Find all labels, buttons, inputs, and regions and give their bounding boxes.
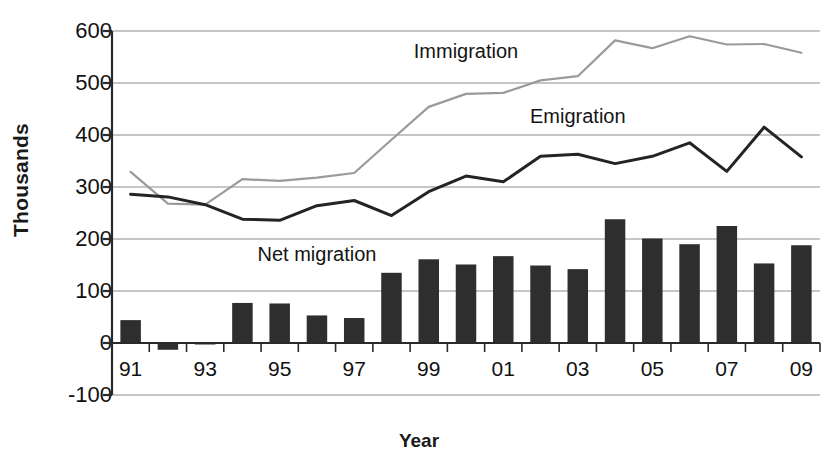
migration-chart: Thousands Year 6005004003002001000-100 9… [0,0,838,466]
bar [754,263,774,343]
line-series [131,127,802,220]
bar [418,259,438,343]
bar [791,245,811,343]
bar [456,264,476,343]
bar [530,266,550,343]
bar [120,320,140,343]
bar [605,219,625,343]
bar [717,226,737,343]
bar [568,269,588,343]
bar [269,303,289,343]
line-series [131,36,802,205]
plot-area [0,0,838,466]
bar [642,238,662,343]
bar [493,256,513,343]
bar [344,318,364,343]
bar [307,315,327,343]
bar [232,303,252,343]
bar [158,343,178,350]
bar [679,244,699,343]
bar [381,273,401,343]
